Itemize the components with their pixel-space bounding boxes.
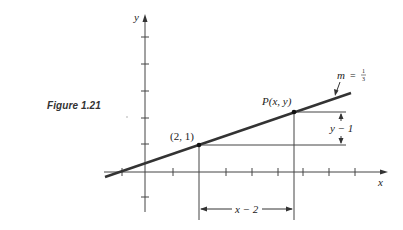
dy-label: y − 1 xyxy=(329,122,353,134)
right-arrow-icon xyxy=(286,207,293,212)
down-arrow-icon xyxy=(339,138,344,144)
line-slope-diagram: x y (2, 1) P(x, y) m = 1 3 xyxy=(0,0,403,230)
slope-denominator: 3 xyxy=(362,76,365,82)
stray-mark xyxy=(126,116,128,118)
y-axis xyxy=(141,14,149,212)
point-p-dot xyxy=(292,110,297,115)
dx-label: x − 2 xyxy=(234,203,259,215)
point-a-label: (2, 1) xyxy=(170,130,194,143)
x-axis-label: x xyxy=(377,176,383,188)
slope-equals: = xyxy=(350,70,356,81)
slope-line xyxy=(105,93,351,177)
point-a-dot xyxy=(197,143,202,148)
left-arrow-icon xyxy=(200,207,207,212)
slope-m: m xyxy=(337,69,345,81)
slope-numerator: 1 xyxy=(362,68,365,74)
slope-annotation: m = 1 3 xyxy=(334,68,366,96)
up-arrow-icon xyxy=(339,113,344,119)
point-p-label: P(x, y) xyxy=(261,95,292,108)
pointer-arrowhead-icon xyxy=(334,89,339,96)
y-axis-label: y xyxy=(133,11,139,23)
x-axis xyxy=(104,168,388,176)
